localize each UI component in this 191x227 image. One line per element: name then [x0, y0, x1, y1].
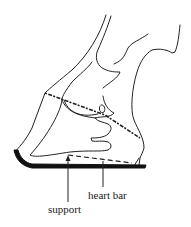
coffin-bone	[30, 62, 114, 156]
heart-bar	[68, 155, 132, 163]
coronary-band	[45, 93, 140, 138]
support-arrowhead	[66, 155, 71, 161]
shoe	[14, 150, 146, 168]
pastern-bone-front	[96, 16, 120, 88]
heel-bulb	[132, 25, 180, 165]
support-label: support	[48, 204, 81, 215]
navicular-bone	[99, 105, 104, 113]
hoof-wall-front	[15, 15, 106, 152]
heart-bar-label: heart bar	[88, 190, 127, 201]
